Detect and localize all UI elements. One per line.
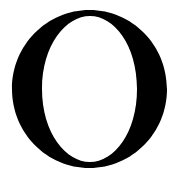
letter-o-shape: [0, 0, 178, 179]
letter-o-glyph: O: [0, 0, 178, 179]
